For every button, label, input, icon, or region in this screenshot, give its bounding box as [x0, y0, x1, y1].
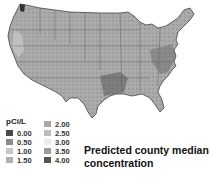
legend-item: 0.50: [6, 138, 46, 147]
swatch-icon: [44, 130, 51, 136]
swatch-icon: [6, 139, 13, 145]
swatch-icon: [44, 139, 51, 145]
legend-item: 0.00: [6, 129, 46, 138]
swatch-icon: [6, 157, 13, 163]
legend-item: 4.00: [44, 156, 84, 165]
legend-item: 3.50: [44, 147, 84, 156]
legend-item: 2.00: [44, 120, 84, 129]
legend-item: 3.00: [44, 138, 84, 147]
legend-title: pCi/L: [6, 117, 26, 126]
us-radon-map: [0, 0, 210, 128]
swatch-icon: [44, 157, 51, 163]
legend-item: 1.00: [6, 147, 46, 156]
caption-line-2: concentration: [84, 157, 209, 170]
legend-item: 2.50: [44, 129, 84, 138]
caption-line-1: Predicted county median: [84, 144, 209, 157]
legend-item: 1.50: [6, 156, 46, 165]
swatch-icon: [6, 130, 13, 136]
swatch-icon: [44, 148, 51, 154]
map-caption: Predicted county median concentration: [84, 144, 209, 170]
swatch-icon: [6, 148, 13, 154]
swatch-icon: [44, 121, 51, 127]
